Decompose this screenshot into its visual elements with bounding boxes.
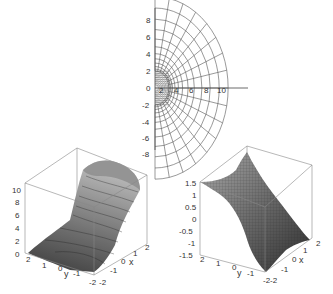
ytick: 2 xyxy=(146,67,151,76)
ztick: 0.5 xyxy=(185,203,197,212)
grid-radial xyxy=(165,24,207,76)
ztick: 0 xyxy=(192,215,197,224)
ztick: 8 xyxy=(15,198,20,207)
grid-radial xyxy=(166,37,215,78)
ytick: 2 xyxy=(200,255,205,264)
ztick: -1 xyxy=(188,239,196,248)
conformal-grid-plot: 8 6 4 2 0 -2 -4 -6 -8 2 4 6 8 10 xyxy=(142,0,248,179)
y-tick-labels: 8 6 4 2 0 -2 -4 -6 -8 xyxy=(142,16,151,159)
xtick: 2 xyxy=(145,243,150,252)
xtick: -2 xyxy=(270,276,278,285)
grid-radial xyxy=(163,102,196,163)
xtick: 2 xyxy=(159,86,164,95)
ytick: -1 xyxy=(73,269,81,278)
ytick: 8 xyxy=(146,16,151,25)
ytick: 1 xyxy=(42,261,47,270)
grid-radial xyxy=(163,12,196,73)
ztick: 10 xyxy=(12,186,21,195)
xtick: 4 xyxy=(174,86,179,95)
xtick: 10 xyxy=(217,86,226,95)
ztick: 1.5 xyxy=(185,179,197,188)
ztick: 2 xyxy=(15,237,20,246)
ztick: -0.5 xyxy=(179,227,193,236)
ytick: 1 xyxy=(216,259,221,268)
grid-radial xyxy=(166,98,215,139)
z-tick-labels: 10 8 6 4 2 0 xyxy=(12,186,21,259)
y-axis-label: y xyxy=(64,269,69,279)
figure: 8 6 4 2 0 -2 -4 -6 -8 2 4 6 8 10 xyxy=(0,0,333,294)
ytick: -1 xyxy=(247,269,255,278)
ztick: 4 xyxy=(15,224,20,233)
ytick: -6 xyxy=(142,134,150,143)
xtick: 0 xyxy=(292,255,297,264)
xtick: 2 xyxy=(316,239,321,248)
x-axis-label: x xyxy=(129,257,134,267)
xtick: 8 xyxy=(204,86,209,95)
ytick: 0 xyxy=(146,84,151,93)
xtick: 1 xyxy=(133,249,138,258)
z-tick-labels: 1.5 1 0.5 0 -0.5 -1 -1.5 xyxy=(179,179,197,260)
ztick: 1 xyxy=(192,191,197,200)
ytick: -8 xyxy=(142,150,150,159)
ytick: -2 xyxy=(142,101,150,110)
xtick: -1 xyxy=(110,266,118,275)
xtick: -2 xyxy=(99,278,107,287)
xtick: -1 xyxy=(281,265,289,274)
ztick: 6 xyxy=(15,211,20,220)
xtick: 0 xyxy=(121,257,126,266)
grid-radial xyxy=(165,100,207,152)
xtick: 1 xyxy=(303,246,308,255)
grid-radial xyxy=(158,105,170,178)
ytick: 6 xyxy=(146,33,151,42)
ytick: -2 xyxy=(89,278,97,287)
x-axis-label: x xyxy=(299,255,304,265)
ztick: -1.5 xyxy=(179,251,193,260)
xtick: 6 xyxy=(189,86,194,95)
ytick: 0 xyxy=(58,264,63,273)
ytick: -4 xyxy=(142,118,150,127)
ytick: 2 xyxy=(26,255,31,264)
ytick: 4 xyxy=(146,50,151,59)
right-surface-plot: 1.5 1 0.5 0 -0.5 -1 -1.5 2 1 0 -1 -2 y -… xyxy=(179,146,321,285)
left-surface-plot: 10 8 6 4 2 0 2 1 0 -1 -2 y -2 -1 0 1 2 x xyxy=(12,148,150,287)
y-axis-label: y xyxy=(237,268,242,278)
ztick: 0 xyxy=(15,250,20,259)
